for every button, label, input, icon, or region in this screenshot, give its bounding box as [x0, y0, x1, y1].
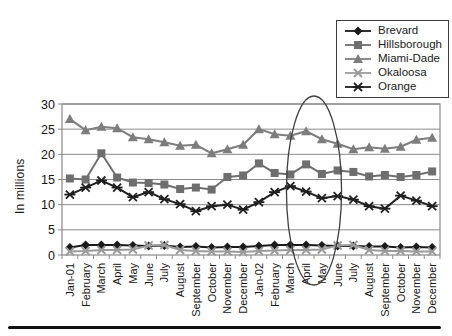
x-tick-label: February [269, 263, 281, 308]
marker-hillsborough [208, 186, 216, 194]
marker-orange [348, 196, 359, 204]
legend-marker-brevard [344, 25, 372, 37]
legend-item-brevard: Brevard [344, 25, 446, 37]
marker-hillsborough [192, 184, 200, 192]
square-glyph [271, 169, 279, 177]
legend-label-brevard: Brevard [378, 25, 418, 37]
x-tick-label: October [206, 263, 218, 302]
square-glyph [82, 176, 90, 184]
legend-glyph-orange [353, 83, 364, 91]
marker-hillsborough [82, 176, 90, 184]
square-glyph [160, 181, 168, 189]
marker-orange [159, 195, 170, 203]
legend-item-hillsborough: Hillsborough [344, 39, 446, 51]
marker-hillsborough [66, 174, 74, 182]
x-tick-label: March [95, 263, 107, 294]
square-glyph [397, 173, 405, 181]
triangle-glyph [301, 126, 311, 135]
triangle-glyph [317, 134, 327, 143]
x-tick-label: April [111, 263, 123, 285]
legend-label-okaloosa: Okaloosa [378, 67, 427, 79]
square-glyph [192, 184, 200, 192]
marker-orange [427, 202, 438, 210]
y-tick-label: 5 [48, 223, 55, 237]
legend-label-orange: Orange [378, 81, 416, 93]
square-glyph [428, 167, 436, 175]
square-glyph [354, 41, 362, 49]
legend-marker-miami-dade [344, 53, 372, 65]
legend-label-miami-dade: Miami-Dade [378, 53, 440, 65]
marker-hillsborough [349, 168, 357, 176]
y-tick-label: 0 [48, 249, 55, 263]
marker-orange [80, 184, 91, 192]
y-tick-label: 10 [41, 198, 55, 212]
legend-glyph-brevard [354, 27, 363, 36]
marker-orange [238, 206, 249, 214]
x-tick-label: September [190, 263, 202, 317]
square-glyph [66, 174, 74, 182]
legend-marker-okaloosa [344, 67, 372, 79]
legend-marker-hillsborough [344, 39, 372, 51]
legend-item-okaloosa: Okaloosa [344, 67, 446, 79]
marker-orange [64, 191, 75, 199]
square-glyph [412, 171, 420, 179]
square-glyph [176, 185, 184, 193]
marker-miami-dade [65, 114, 75, 123]
x-tick-label: October [395, 263, 407, 302]
marker-hillsborough [145, 179, 153, 187]
legend-marker-orange [344, 81, 372, 93]
x-tick-label: Jan-01 [64, 263, 76, 297]
marker-orange [112, 184, 123, 192]
marker-hillsborough [302, 160, 310, 168]
marker-orange [364, 202, 375, 210]
chart-legend: BrevardHillsboroughMiami-DadeOkaloosaOra… [336, 20, 449, 98]
marker-hillsborough [428, 167, 436, 175]
marker-orange [143, 188, 154, 196]
legend-label-hillsborough: Hillsborough [378, 39, 442, 51]
x-tick-label: May [127, 263, 139, 284]
x-tick-label: August [363, 263, 375, 297]
square-glyph [318, 170, 326, 178]
x-tick-label: November [410, 263, 422, 314]
x-tick-label: June [143, 263, 155, 287]
x-tick-label: March [284, 263, 296, 294]
marker-orange [379, 205, 390, 213]
square-glyph [302, 160, 310, 168]
marker-hillsborough [239, 171, 247, 179]
square-glyph [97, 149, 105, 157]
y-tick-label: 25 [41, 123, 55, 137]
y-tick-label: 20 [41, 148, 55, 162]
square-glyph [145, 179, 153, 187]
marker-hillsborough [255, 159, 263, 167]
series-line-miami-dade [70, 119, 432, 153]
legend-item-orange: Orange [344, 81, 446, 93]
marker-orange [222, 201, 233, 209]
marker-hillsborough [223, 173, 231, 181]
marker-hillsborough [113, 173, 121, 181]
marker-hillsborough [365, 172, 373, 180]
series-line-orange [70, 181, 432, 212]
marker-orange [269, 188, 280, 196]
marker-hillsborough [176, 185, 184, 193]
x-tick-label: February [80, 263, 92, 308]
triangle-glyph [65, 114, 75, 123]
marker-hillsborough [271, 169, 279, 177]
marker-orange [301, 188, 312, 196]
square-glyph [349, 168, 357, 176]
marker-orange [96, 177, 107, 185]
marker-hillsborough [97, 149, 105, 157]
x-tick-label: June [332, 263, 344, 287]
x-tick-label: July [158, 263, 170, 283]
x-tick-label: Jan-02 [253, 263, 265, 297]
marker-hillsborough [160, 181, 168, 189]
bottom-divider-rule [8, 326, 441, 329]
marker-hillsborough [129, 179, 137, 187]
square-glyph [381, 171, 389, 179]
diamond-glyph [354, 27, 363, 36]
x-tick-label: August [174, 263, 186, 297]
series-line-brevard [70, 245, 432, 248]
marker-hillsborough [318, 170, 326, 178]
marker-miami-dade [317, 134, 327, 143]
marker-orange [190, 207, 201, 215]
x-tick-label: September [379, 263, 391, 317]
